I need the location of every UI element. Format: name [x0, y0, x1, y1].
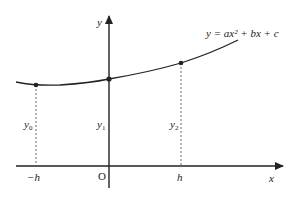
point-h: [179, 61, 184, 66]
curve-label-text: y = ax² + bx + c: [205, 27, 279, 39]
ordinate-label-y2: y2: [169, 118, 179, 132]
ordinate-label-y0: y0: [23, 118, 33, 132]
point-zero: [106, 76, 111, 81]
point-minus-h: [34, 83, 39, 88]
x-axis-label: x: [268, 172, 274, 184]
y-axis-label: y: [96, 16, 102, 28]
ordinate-label-y1: y1: [96, 118, 106, 132]
parabola-diagram: y x O y = ax² + bx + c −h h y0 y1 y2: [0, 0, 290, 201]
curve-label: y = ax² + bx + c: [205, 27, 279, 39]
tick-minus-h: −h: [27, 171, 40, 183]
origin-label: O: [98, 170, 106, 182]
tick-h: h: [177, 171, 183, 183]
parabola-curve: [16, 40, 238, 85]
